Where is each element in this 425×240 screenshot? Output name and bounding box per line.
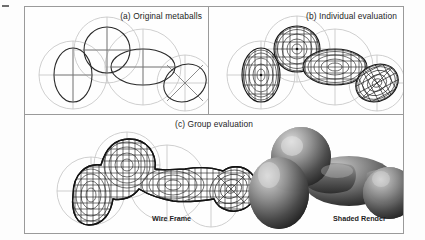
scan-artifact-dash bbox=[2, 5, 9, 7]
panel-b-graphic bbox=[209, 7, 403, 114]
caption-b: (b) Individual evaluation bbox=[306, 11, 397, 21]
mesh-blob-tall-left bbox=[242, 48, 280, 102]
caption-c: (c) Group evaluation bbox=[175, 119, 253, 129]
panel-individual-evaluation: (b) Individual evaluation bbox=[209, 7, 403, 114]
panel-original-metaballs: (a) Original metaballs bbox=[25, 7, 208, 114]
panel-a-graphic bbox=[25, 7, 208, 114]
influence-axes-a bbox=[39, 17, 208, 111]
label-wire-frame: Wire Frame bbox=[152, 214, 191, 223]
metaball-figure: (a) Original metaballs bbox=[0, 0, 425, 240]
influence-circles-a bbox=[39, 17, 208, 111]
caption-a: (a) Original metaballs bbox=[120, 11, 202, 21]
label-shaded-render: Shaded Render bbox=[333, 214, 386, 223]
